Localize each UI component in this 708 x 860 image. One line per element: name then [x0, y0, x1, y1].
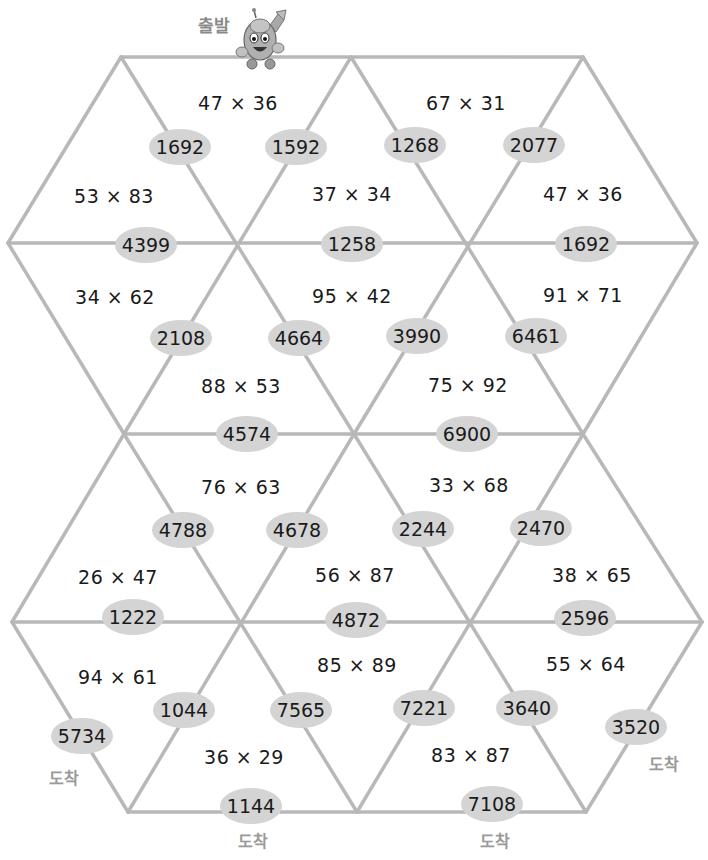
triangle-expression: 34 × 62 — [75, 286, 155, 308]
answer-bubble[interactable]: 1692 — [555, 226, 617, 262]
answer-bubble[interactable]: 2470 — [510, 510, 572, 546]
answer-bubble[interactable]: 4678 — [266, 512, 328, 548]
answer-bubble[interactable]: 4664 — [268, 320, 330, 356]
mascot-character-icon — [232, 6, 292, 72]
triangle-expression: 47 × 36 — [198, 92, 278, 114]
answer-bubble[interactable]: 2244 — [392, 511, 454, 547]
triangle-expression: 91 × 71 — [543, 284, 623, 306]
triangle-expression: 26 × 47 — [78, 566, 158, 588]
answer-bubble[interactable]: 7565 — [270, 692, 332, 728]
answer-bubble[interactable]: 5734 — [51, 718, 113, 754]
answer-bubble[interactable]: 1258 — [321, 226, 383, 262]
triangle-expression: 85 × 89 — [317, 654, 397, 676]
answer-bubble[interactable]: 1592 — [265, 129, 327, 165]
triangle-expression: 38 × 65 — [552, 564, 632, 586]
end-label-bottom-right: 도착 — [480, 828, 510, 852]
answer-bubble[interactable]: 2077 — [503, 127, 565, 163]
triangle-expression: 83 × 87 — [431, 744, 511, 766]
answer-bubble[interactable]: 7108 — [461, 786, 523, 822]
answer-bubble[interactable]: 1144 — [220, 788, 282, 824]
triangle-expression: 67 × 31 — [426, 92, 506, 114]
answer-bubble[interactable]: 3990 — [386, 318, 448, 354]
end-label-left: 도착 — [49, 765, 79, 789]
triangle-expression: 47 × 36 — [543, 183, 623, 205]
answer-bubble[interactable]: 7221 — [393, 690, 455, 726]
answer-bubble[interactable]: 6461 — [505, 318, 567, 354]
triangle-expression: 94 × 61 — [78, 666, 158, 688]
triangle-expression: 55 × 64 — [546, 653, 626, 675]
answer-bubble[interactable]: 4399 — [115, 227, 177, 263]
triangle-expression: 75 × 92 — [428, 374, 508, 396]
answer-bubble[interactable]: 1222 — [102, 599, 164, 635]
end-label-right: 도착 — [649, 751, 679, 775]
triangle-expression: 88 × 53 — [201, 375, 281, 397]
answer-bubble[interactable]: 3640 — [496, 690, 558, 726]
answer-bubble[interactable]: 2596 — [554, 600, 616, 636]
answer-bubble[interactable]: 1692 — [149, 129, 211, 165]
answer-bubble[interactable]: 1268 — [384, 127, 446, 163]
answer-bubble[interactable]: 4872 — [325, 602, 387, 638]
triangle-expression: 95 × 42 — [312, 285, 392, 307]
answer-bubble[interactable]: 4574 — [216, 416, 278, 452]
maze-board: 출발 도착 도착 도착 도착 47 × 36 67 × 31 53 × 83 3… — [0, 0, 708, 860]
triangle-expression: 37 × 34 — [312, 183, 392, 205]
start-label: 출발 — [198, 12, 230, 37]
answer-bubble[interactable]: 1044 — [153, 692, 215, 728]
answer-bubble[interactable]: 3520 — [605, 709, 667, 745]
triangle-expression: 33 × 68 — [429, 474, 509, 496]
triangle-expression: 76 × 63 — [201, 476, 281, 498]
answer-bubble[interactable]: 4788 — [152, 512, 214, 548]
answer-bubble[interactable]: 6900 — [436, 416, 498, 452]
answer-bubble[interactable]: 2108 — [150, 320, 212, 356]
triangle-expression: 53 × 83 — [74, 185, 154, 207]
triangle-expression: 56 × 87 — [315, 564, 395, 586]
triangle-expression: 36 × 29 — [204, 746, 284, 768]
end-label-bottom-left: 도착 — [238, 828, 268, 852]
